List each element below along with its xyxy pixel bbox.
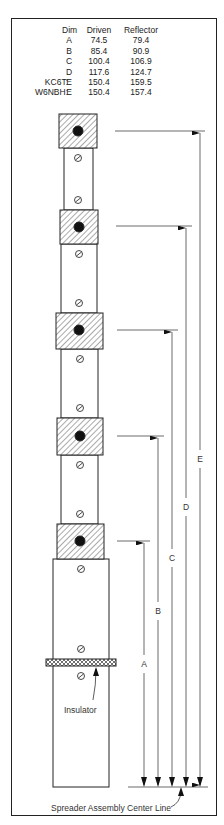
centerline-label: Spreader Assembly Center Line	[51, 803, 171, 813]
arrow-down-icon	[197, 777, 203, 787]
dimension-label-c: C	[169, 553, 175, 563]
rivet-icon	[74, 222, 84, 232]
baseline-arrowheads	[141, 777, 203, 787]
clamp-block-5	[57, 524, 104, 559]
rivet-icon	[75, 536, 85, 546]
rivet-icon	[74, 325, 84, 335]
screw-icon	[78, 646, 85, 653]
arrow-down-icon	[169, 777, 175, 787]
screw-icon	[76, 251, 83, 258]
screw-icon	[77, 405, 84, 412]
antenna-element-drawing: E D C B A Insulator Spreader Assembly Ce…	[0, 0, 224, 825]
dimension-label-d: D	[183, 502, 189, 512]
screw-icon	[75, 155, 82, 162]
rivet-icon	[75, 431, 85, 441]
clamp-block-1	[59, 114, 97, 148]
arrow-up-icon	[178, 787, 184, 796]
dimension-label-b: B	[155, 606, 161, 616]
dimension-label-a: A	[141, 659, 147, 669]
screw-icon	[75, 197, 82, 204]
insulator-label: Insulator	[64, 705, 97, 715]
arrow-down-icon	[141, 777, 147, 787]
insulator-band	[46, 659, 116, 666]
rivet-icon	[73, 126, 83, 136]
dimension-lines	[144, 133, 200, 785]
screw-icon	[76, 300, 83, 307]
dimension-label-e: E	[197, 454, 203, 464]
extension-lines	[115, 131, 208, 787]
clamp-block-4	[57, 418, 103, 455]
screw-icon	[78, 566, 85, 573]
arrow-down-icon	[183, 777, 189, 787]
clamp-block-2	[60, 210, 98, 244]
screw-icon	[77, 356, 84, 363]
screw-icon	[77, 511, 84, 518]
screw-icon	[77, 462, 84, 469]
arrow-down-icon	[155, 777, 161, 787]
clamp-block-3	[56, 313, 103, 349]
screw-icon	[78, 673, 85, 680]
